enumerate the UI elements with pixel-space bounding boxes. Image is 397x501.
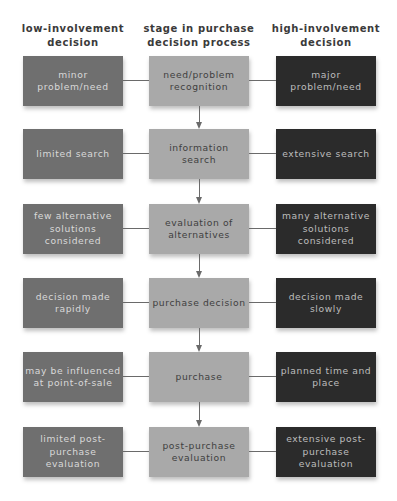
connector-line xyxy=(249,376,276,377)
low-involvement-box: decision made rapidly xyxy=(23,278,123,328)
stage-box-label: need/problem recognition xyxy=(151,69,247,94)
connector-line xyxy=(249,80,276,81)
header-high-involvement: high-involvement decision xyxy=(263,22,389,50)
stage-box: post-purchase evaluation xyxy=(149,427,249,477)
high-involvement-box-label: extensive search xyxy=(282,148,369,161)
high-involvement-box-label: planned time and place xyxy=(278,365,374,390)
stage-box-label: information search xyxy=(151,142,247,167)
low-involvement-box: minor problem/need xyxy=(23,56,123,106)
connector-line xyxy=(249,228,276,229)
high-involvement-box-label: decision made slowly xyxy=(278,291,374,316)
stage-box: evaluation of alternatives xyxy=(149,204,249,254)
stage-box: purchase xyxy=(149,352,249,402)
arrow-down-icon xyxy=(196,420,202,427)
high-involvement-box-label: many alternative solutions considered xyxy=(278,210,374,248)
connector-line xyxy=(249,302,276,303)
flow-arrow-line xyxy=(199,106,200,123)
low-involvement-box-label: limited search xyxy=(36,148,110,161)
stage-box-label: purchase xyxy=(176,371,223,384)
low-involvement-box-label: may be influenced at point-of-sale xyxy=(25,365,121,390)
flow-arrow-line xyxy=(199,179,200,198)
connector-line xyxy=(123,153,149,154)
arrow-down-icon xyxy=(196,122,202,129)
stage-box-label: post-purchase evaluation xyxy=(151,440,247,465)
connector-line xyxy=(123,376,149,377)
high-involvement-box-label: extensive post-purchase evaluation xyxy=(278,433,374,471)
header-stage: stage in purchase decision process xyxy=(136,22,262,50)
arrow-down-icon xyxy=(196,197,202,204)
high-involvement-box-label: major problem/need xyxy=(278,69,374,94)
arrow-down-icon xyxy=(196,345,202,352)
high-involvement-box: extensive search xyxy=(276,129,376,179)
connector-line xyxy=(123,302,149,303)
high-involvement-box: major problem/need xyxy=(276,56,376,106)
connector-line xyxy=(249,153,276,154)
low-involvement-box-label: few alternative solutions considered xyxy=(25,210,121,248)
flow-arrow-line xyxy=(199,402,200,421)
low-involvement-box-label: limited post-purchase evaluation xyxy=(25,433,121,471)
connector-line xyxy=(123,451,149,452)
high-involvement-box: planned time and place xyxy=(276,352,376,402)
connector-line xyxy=(123,228,149,229)
low-involvement-box: limited search xyxy=(23,129,123,179)
high-involvement-box: many alternative solutions considered xyxy=(276,204,376,254)
stage-box: purchase decision xyxy=(149,278,249,328)
connector-line xyxy=(123,80,149,81)
low-involvement-box: few alternative solutions considered xyxy=(23,204,123,254)
low-involvement-box-label: decision made rapidly xyxy=(25,291,121,316)
stage-box: information search xyxy=(149,129,249,179)
stage-box: need/problem recognition xyxy=(149,56,249,106)
high-involvement-box: extensive post-purchase evaluation xyxy=(276,427,376,477)
flow-arrow-line xyxy=(199,328,200,346)
stage-box-label: evaluation of alternatives xyxy=(151,217,247,242)
arrow-down-icon xyxy=(196,271,202,278)
high-involvement-box: decision made slowly xyxy=(276,278,376,328)
low-involvement-box: may be influenced at point-of-sale xyxy=(23,352,123,402)
connector-line xyxy=(249,451,276,452)
flow-arrow-line xyxy=(199,254,200,272)
stage-box-label: purchase decision xyxy=(152,297,245,310)
low-involvement-box-label: minor problem/need xyxy=(25,69,121,94)
header-low-involvement: low-involvement decision xyxy=(10,22,136,50)
low-involvement-box: limited post-purchase evaluation xyxy=(23,427,123,477)
